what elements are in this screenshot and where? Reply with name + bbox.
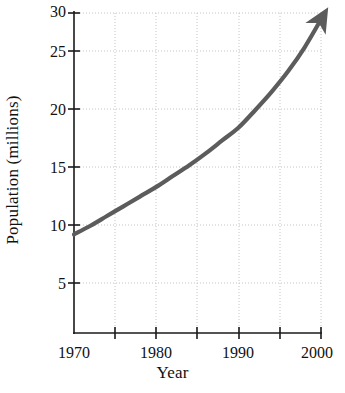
horizontal-gridlines <box>74 13 322 283</box>
vertical-gridlines <box>115 13 321 333</box>
plot-area <box>0 0 345 393</box>
population-growth-chart: Population (millions) Year 5 10 15 20 25… <box>0 0 345 393</box>
